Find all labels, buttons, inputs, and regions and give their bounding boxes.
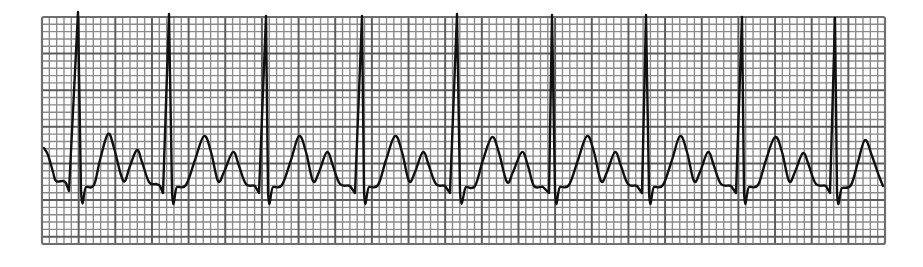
ecg-trace xyxy=(44,12,883,204)
ecg-chart xyxy=(0,0,923,267)
